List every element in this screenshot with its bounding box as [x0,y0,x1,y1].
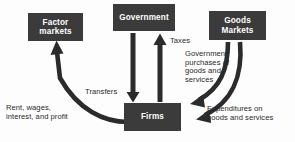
flow-label-taxes: Taxes [170,37,190,46]
flow-label-expenditures: Expenditures on goods and services [207,105,273,122]
flow-label-government-purchases: Government purchases of goods and servic… [185,50,229,84]
node-government-label: Government [119,13,169,23]
arrow-taxes [154,34,167,103]
node-government: Government [113,4,175,31]
node-firms: Firms [124,103,181,131]
node-goods-markets: Goods Markets [209,11,266,40]
arrow-transfers [127,33,140,103]
flow-label-transfers: Transfers [85,88,117,97]
node-factor-markets: Factor markets [28,13,83,41]
circular-flow-diagram: Factor markets Government Goods Markets … [0,0,295,142]
node-goods-markets-label: Goods Markets [222,16,254,35]
node-firms-label: Firms [141,112,164,122]
node-factor-markets-label: Factor markets [39,18,71,37]
flow-label-rent-wages-interest-profit: Rent, wages, interest, and profit [6,104,68,121]
